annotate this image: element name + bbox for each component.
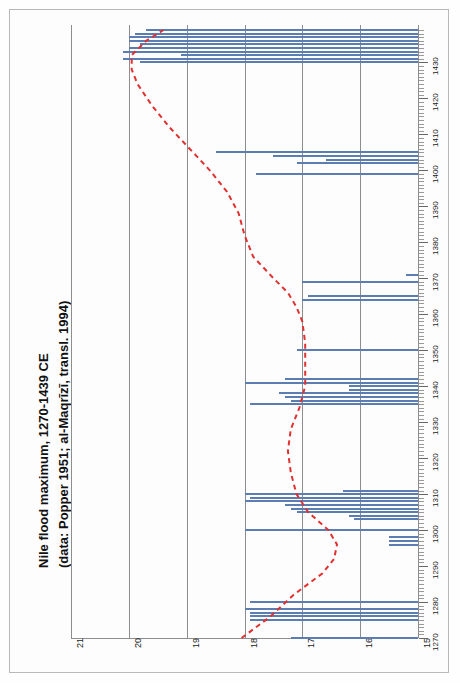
trend-line [0, 0, 460, 683]
chart-plot-area: Nile flood maximum, 1270-1439 CE (data: … [0, 0, 460, 683]
figure-page: Nile flood maximum, 1270-1439 CE (data: … [0, 0, 460, 683]
